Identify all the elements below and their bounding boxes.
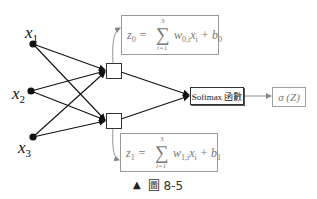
neuron-node-0: [106, 63, 122, 79]
sum-lower: i=1: [156, 162, 166, 170]
neuron-node-1: [106, 113, 122, 129]
input-label-x1: x1: [25, 24, 38, 44]
input-label-x3: x3: [18, 139, 31, 159]
figure-caption: ▲ 圖 8-5: [133, 176, 183, 193]
input-label-x2: x2: [12, 85, 25, 105]
equation-lhs: z1 =: [126, 146, 146, 162]
equation-rhs: w0,ixi + b0: [174, 28, 222, 44]
equation-lhs: z0 =: [127, 28, 147, 44]
triangle-marker-icon: ▲: [133, 179, 141, 190]
output-box: σ (Z): [272, 87, 306, 107]
input-edges: [31, 44, 105, 137]
summation-icon: ∑: [156, 25, 170, 44]
sum-lower: i=1: [157, 44, 167, 52]
caption-text: 圖 8-5: [148, 176, 183, 193]
softmax-box: Softmax 函數: [190, 87, 244, 105]
input-dot-2: [27, 87, 34, 94]
equation-rhs: w1,ixi + b1: [173, 146, 221, 162]
equation-box-z0: z0 = 3 ∑ i=1 w0,ixi + b0: [121, 15, 219, 55]
summation-icon: ∑: [155, 143, 169, 162]
equation-box-z1: z1 = 3 ∑ i=1 w1,ixi + b1: [120, 133, 218, 172]
